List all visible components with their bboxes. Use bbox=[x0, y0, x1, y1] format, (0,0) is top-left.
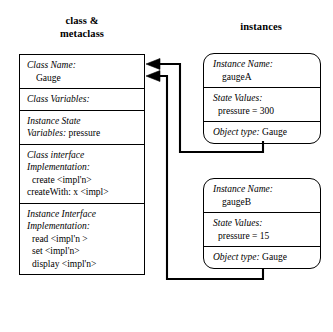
arrowhead-gaugeB-to-class bbox=[146, 71, 160, 82]
instance-interface-method-set: set <impl'n> bbox=[27, 245, 139, 258]
instance-gaugeB-state-section: State Values: pressure = 15 bbox=[204, 213, 320, 247]
instance-gaugeB-state-value: pressure = 15 bbox=[213, 230, 314, 243]
instance-gaugeB-name-colon: : bbox=[270, 184, 273, 194]
class-interface-label-line1: Class interface bbox=[27, 149, 139, 162]
class-box: Class Name: Gauge Class Variables: Insta… bbox=[19, 54, 145, 275]
instance-gaugeA-state-colon: : bbox=[259, 93, 262, 103]
instance-gaugeA-type-value: Gauge bbox=[262, 127, 287, 137]
heading-class-metaclass-line1: class & bbox=[18, 14, 146, 27]
class-interface-label-line2: Implementation: bbox=[27, 161, 139, 174]
instance-gaugeA-name-label-row: Instance Name: bbox=[213, 58, 314, 71]
instance-gaugeA-state-label-row: State Values: bbox=[213, 92, 314, 105]
class-name-value: Gauge bbox=[27, 72, 139, 85]
instance-box-gaugeB: Instance Name: gaugeB State Values: pres… bbox=[203, 178, 321, 269]
heading-class-metaclass-line2: metaclass bbox=[18, 27, 146, 40]
instance-state-variables-value-text: pressure bbox=[68, 128, 100, 138]
instance-interface-label-line1: Instance Interface bbox=[27, 208, 139, 221]
class-section-class-variables: Class Variables: bbox=[20, 89, 144, 111]
instance-gaugeB-name-value: gaugeB bbox=[213, 196, 314, 209]
instance-gaugeA-state-label: State Values bbox=[213, 93, 259, 103]
class-section-instance-state-variables: Instance State Variables: pressure bbox=[20, 111, 144, 145]
instance-gaugeB-type-label: Object type bbox=[213, 252, 257, 262]
class-section-class-name: Class Name: Gauge bbox=[20, 55, 144, 89]
instance-gaugeB-name-label: Instance Name bbox=[213, 184, 270, 194]
class-section-class-interface: Class interface Implementation: create <… bbox=[20, 145, 144, 204]
arrowhead-gaugeA-to-class bbox=[146, 59, 160, 70]
instance-gaugeB-name-section: Instance Name: gaugeB bbox=[204, 179, 320, 213]
instance-state-variables-label-line2: Variables: pressure bbox=[27, 127, 139, 140]
instance-interface-method-display: display <impl'n> bbox=[27, 258, 139, 271]
instance-gaugeB-state-label: State Values bbox=[213, 218, 259, 228]
class-interface-label-1: Class interface bbox=[27, 150, 84, 160]
instance-gaugeA-state-section: State Values: pressure = 300 bbox=[204, 88, 320, 122]
class-name-label: Class Name bbox=[27, 60, 73, 70]
instance-gaugeB-name-label-row: Instance Name: bbox=[213, 183, 314, 196]
class-variables-label-colon: : bbox=[86, 94, 89, 104]
instance-gaugeA-type-label: Object type bbox=[213, 127, 257, 137]
instance-gaugeB-state-label-row: State Values: bbox=[213, 217, 314, 230]
instance-gaugeA-type-row: Object type: Gauge bbox=[213, 126, 314, 139]
instance-box-gaugeA: Instance Name: gaugeA State Values: pres… bbox=[203, 53, 321, 144]
instance-gaugeA-name-value: gaugeA bbox=[213, 71, 314, 84]
instance-gaugeB-state-colon: : bbox=[259, 218, 262, 228]
heading-instances: instances bbox=[196, 20, 326, 33]
instance-state-variables-label-2: Variables bbox=[27, 128, 63, 138]
instance-gaugeB-type-value: Gauge bbox=[262, 252, 287, 262]
class-interface-method-createwith: createWith: x <impl> bbox=[27, 186, 139, 199]
instance-gaugeA-type-section: Object type: Gauge bbox=[204, 122, 320, 143]
instance-gaugeA-state-value: pressure = 300 bbox=[213, 105, 314, 118]
instance-gaugeB-type-section: Object type: Gauge bbox=[204, 247, 320, 268]
instance-interface-label-line2: Implementation: bbox=[27, 220, 139, 233]
instance-state-variables-label-line1: Instance State bbox=[27, 115, 139, 128]
instance-interface-label-2: Implementation bbox=[27, 221, 87, 231]
class-interface-method-create: create <impl'n> bbox=[27, 174, 139, 187]
instance-gaugeB-type-row: Object type: Gauge bbox=[213, 251, 314, 264]
instance-state-variables-label-1: Instance State bbox=[27, 116, 81, 126]
instance-gaugeA-name-section: Instance Name: gaugeA bbox=[204, 54, 320, 88]
instance-gaugeA-name-label: Instance Name bbox=[213, 59, 270, 69]
object-model-diagram: class & metaclass instances Class Name: … bbox=[0, 0, 333, 332]
instance-interface-label-1: Instance Interface bbox=[27, 209, 96, 219]
class-interface-colon: : bbox=[87, 162, 90, 172]
class-variables-label-row: Class Variables: bbox=[27, 93, 139, 106]
class-section-instance-interface: Instance Interface Implementation: read … bbox=[20, 204, 144, 275]
instance-interface-colon: : bbox=[87, 221, 90, 231]
instance-interface-method-read: read <impl'n > bbox=[27, 233, 139, 246]
heading-class-metaclass: class & metaclass bbox=[18, 14, 146, 40]
class-interface-label-2: Implementation bbox=[27, 162, 87, 172]
instance-gaugeA-name-colon: : bbox=[270, 59, 273, 69]
class-name-label-colon: : bbox=[73, 60, 76, 70]
class-variables-label: Class Variables bbox=[27, 94, 86, 104]
class-name-label-row: Class Name: bbox=[27, 59, 139, 72]
